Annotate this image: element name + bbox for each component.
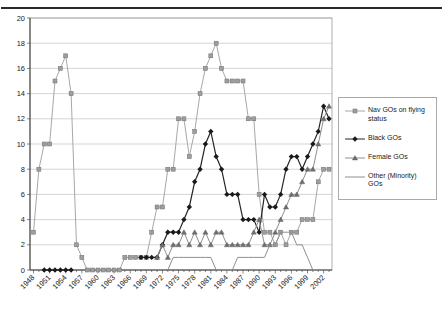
- svg-text:1978: 1978: [179, 273, 197, 291]
- legend-label: Nav GOs on flying status: [368, 106, 432, 124]
- legend-label: Female GOs: [368, 153, 408, 162]
- legend-line-marker-icon: [344, 173, 366, 181]
- page: { "chart_data": { "type": "line", "title…: [0, 0, 444, 309]
- svg-text:8: 8: [21, 165, 25, 174]
- svg-text:1999: 1999: [292, 273, 310, 291]
- svg-text:10: 10: [17, 140, 25, 149]
- series-female-gos: [154, 104, 331, 260]
- svg-text:1990: 1990: [244, 273, 262, 291]
- svg-text:1993: 1993: [260, 273, 278, 291]
- svg-text:1957: 1957: [67, 273, 85, 291]
- svg-text:4: 4: [21, 215, 25, 224]
- x-axis-labels: 1948195119541957196019631966196919721975…: [18, 273, 326, 291]
- svg-text:1987: 1987: [228, 273, 246, 291]
- legend: Nav GOs on flying status Black GOs Femal…: [338, 97, 437, 200]
- svg-text:1960: 1960: [83, 273, 101, 291]
- legend-item-female-gos: Female GOs: [344, 153, 432, 162]
- svg-text:1972: 1972: [147, 273, 165, 291]
- svg-text:16: 16: [17, 64, 25, 73]
- svg-text:1966: 1966: [115, 273, 133, 291]
- svg-text:6: 6: [21, 190, 25, 199]
- svg-text:18: 18: [17, 39, 25, 48]
- svg-text:1948: 1948: [18, 273, 36, 291]
- legend-triangle-marker-icon: [344, 154, 366, 162]
- svg-text:2: 2: [21, 240, 25, 249]
- legend-item-other-minority-gos: Other (Minority) GOs: [344, 172, 432, 190]
- svg-text:1984: 1984: [212, 273, 230, 291]
- legend-square-marker-icon: [344, 107, 366, 115]
- svg-text:1969: 1969: [131, 273, 149, 291]
- svg-text:14: 14: [17, 89, 25, 98]
- svg-text:1963: 1963: [99, 273, 117, 291]
- svg-text:1954: 1954: [50, 273, 68, 291]
- svg-text:1975: 1975: [163, 273, 181, 291]
- legend-diamond-marker-icon: [344, 135, 366, 143]
- series-black-gos: [42, 104, 332, 273]
- svg-text:0: 0: [21, 266, 25, 275]
- legend-label: Black GOs: [368, 134, 401, 143]
- legend-label: Other (Minority) GOs: [368, 172, 432, 190]
- axis-ticks: [27, 18, 329, 274]
- svg-text:1981: 1981: [196, 273, 214, 291]
- y-axis-labels: 02468101214161820: [17, 14, 25, 275]
- legend-item-nav-gos: Nav GOs on flying status: [344, 106, 432, 124]
- legend-item-black-gos: Black GOs: [344, 134, 432, 143]
- svg-text:1996: 1996: [276, 273, 294, 291]
- svg-text:12: 12: [17, 114, 25, 123]
- svg-text:1951: 1951: [34, 273, 52, 291]
- svg-text:2002: 2002: [308, 273, 326, 291]
- svg-text:20: 20: [17, 14, 25, 23]
